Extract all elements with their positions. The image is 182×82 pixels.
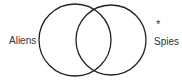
set-label-aliens: Aliens xyxy=(9,36,36,46)
asterisk-marker: * xyxy=(156,19,160,30)
set-label-spies: Spies xyxy=(154,37,179,47)
set-circle-aliens xyxy=(39,4,111,76)
